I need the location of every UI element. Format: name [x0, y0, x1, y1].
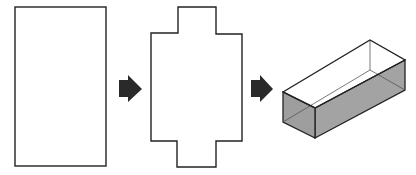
open-box: [283, 40, 405, 138]
cut-net: [151, 7, 242, 167]
flat-sheet: [15, 7, 106, 166]
diagram-canvas: [0, 0, 416, 175]
arrow-icon: [119, 75, 142, 102]
arrow-icon: [251, 75, 273, 102]
